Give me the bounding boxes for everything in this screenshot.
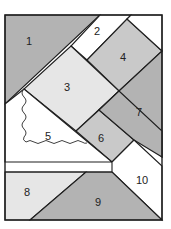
piece-7-label: 7 — [136, 106, 142, 118]
piece-9-label: 9 — [95, 196, 101, 208]
piece-6-label: 6 — [98, 132, 104, 144]
piece-2-label: 2 — [94, 25, 100, 37]
piece-3-label: 3 — [64, 81, 70, 93]
piece-10-label: 10 — [136, 174, 148, 186]
piece-5-label: 5 — [45, 130, 51, 142]
piece-1-label: 1 — [26, 35, 32, 47]
piece-4-label: 4 — [120, 51, 126, 63]
piece-8-label: 8 — [24, 186, 30, 198]
quilt-block-diagram: 1 2 3 4 5 6 7 8 9 10 — [0, 0, 171, 229]
